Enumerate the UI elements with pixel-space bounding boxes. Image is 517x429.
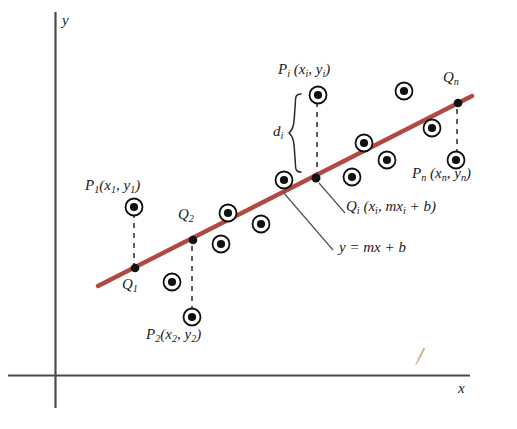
label-p1: P1(x1, y1) (85, 178, 140, 195)
scatter-point (253, 216, 270, 233)
scatter-point (310, 87, 327, 104)
label-pi: Pi (xi, yi) (278, 62, 330, 79)
scan-smudge-artifact (415, 347, 425, 366)
label-q2: Q2 (178, 207, 194, 224)
regression-diagram: y x P1(x1, y1) P2(x2, y2) Pi (xi, yi) Pn… (0, 0, 517, 429)
projection-point-q2 (189, 236, 198, 245)
y-axis-label: y (62, 13, 69, 28)
scatter-point (164, 274, 181, 291)
scatter-point (220, 205, 237, 222)
label-q1: Q1 (122, 277, 138, 294)
leader-line-equation (283, 192, 333, 250)
projection-point-qi (312, 174, 321, 183)
scatter-point (276, 172, 293, 189)
label-qi-equation: Qi (xi, mxi + b) (346, 199, 436, 216)
scatter-point (344, 169, 361, 186)
scatter-point (379, 152, 396, 169)
label-line-equation: y = mx + b (339, 240, 406, 255)
projection-point-q1 (131, 264, 140, 273)
scatter-point (184, 309, 201, 326)
regression-line (98, 96, 472, 286)
scatter-point (424, 120, 441, 137)
label-di: di (273, 124, 283, 141)
scatter-point (356, 135, 373, 152)
projection-point-qn (454, 99, 463, 108)
label-qn: Qn (443, 70, 459, 87)
diagram-canvas (0, 0, 517, 429)
scatter-point (213, 236, 230, 253)
leader-line-qi (319, 183, 345, 213)
leader-lines-group (283, 183, 345, 250)
x-axis-label: x (458, 381, 465, 396)
brace-di (289, 94, 301, 172)
label-p2: P2(x2, y2) (146, 327, 201, 344)
label-pn: Pn (xn, yn) (412, 166, 471, 183)
scatter-point (126, 199, 143, 216)
scatter-point (396, 83, 413, 100)
